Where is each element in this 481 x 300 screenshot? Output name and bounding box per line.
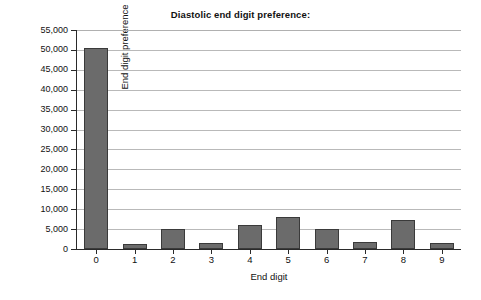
- gridline: [77, 30, 461, 31]
- y-axis-tick-label: 40,000: [16, 85, 68, 94]
- gridline: [77, 50, 461, 51]
- bar: [391, 220, 415, 249]
- bar: [315, 229, 339, 249]
- gridline: [77, 90, 461, 91]
- y-axis-tick-label: 20,000: [16, 165, 68, 174]
- bar: [123, 244, 147, 249]
- y-axis-tick-label: 55,000: [16, 26, 68, 35]
- bar: [199, 243, 223, 249]
- bar: [353, 242, 377, 249]
- x-axis-tick-label: 1: [120, 254, 150, 265]
- y-axis-tick-label: 35,000: [16, 105, 68, 114]
- x-axis-tick-label: 7: [350, 254, 380, 265]
- x-axis-tick-label: 4: [235, 254, 265, 265]
- bar-chart: Diastolic end digit preference: End digi…: [0, 0, 481, 300]
- x-axis-tick-label: 5: [273, 254, 303, 265]
- x-axis-tick-label: 3: [196, 254, 226, 265]
- x-axis-tick-label: 0: [81, 254, 111, 265]
- y-axis-tick-label: 25,000: [16, 145, 68, 154]
- x-axis-tick-label: 8: [388, 254, 418, 265]
- y-axis-tick-label: 0: [16, 245, 68, 254]
- gridline: [77, 209, 461, 210]
- y-axis-tick-label: 45,000: [16, 65, 68, 74]
- gridline: [77, 189, 461, 190]
- y-axis-tick-label: 5,000: [16, 225, 68, 234]
- y-axis-tick-label: 15,000: [16, 185, 68, 194]
- bar: [84, 48, 108, 249]
- bar: [276, 217, 300, 249]
- x-axis-tick-label: 9: [427, 254, 457, 265]
- y-axis-tick-label: 30,000: [16, 125, 68, 134]
- bar: [430, 243, 454, 249]
- gridline: [77, 110, 461, 111]
- gridline: [77, 149, 461, 150]
- gridline: [77, 169, 461, 170]
- x-axis-tick-label: 6: [312, 254, 342, 265]
- x-axis-tick-label: 2: [158, 254, 188, 265]
- plot-area: [77, 30, 461, 249]
- chart-title: Diastolic end digit preference:: [0, 9, 481, 20]
- y-axis-tick-label: 50,000: [16, 45, 68, 54]
- bar: [238, 225, 262, 249]
- x-axis-title: End digit: [77, 271, 461, 282]
- gridline: [77, 70, 461, 71]
- gridline: [77, 130, 461, 131]
- y-axis-tick-labels: 05,00010,00015,00020,00025,00030,00035,0…: [12, 0, 68, 300]
- bar: [161, 229, 185, 249]
- y-axis-tick-label: 10,000: [16, 205, 68, 214]
